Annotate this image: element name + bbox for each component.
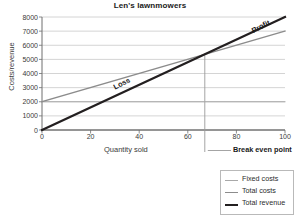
x-tick-label: 0 — [40, 133, 44, 140]
legend-item-fixed-costs[interactable]: Fixed costs — [225, 175, 278, 184]
x-tick-label: 80 — [232, 133, 240, 140]
legend-label-total-costs: Total costs — [242, 187, 276, 195]
x-tick-label: 100 — [279, 133, 291, 140]
legend: Fixed costs Total costs Total revenue — [220, 170, 294, 215]
x-tick-label: 40 — [135, 133, 143, 140]
legend-item-total-costs[interactable]: Total costs — [225, 187, 276, 196]
legend-swatch-total-costs — [225, 188, 238, 196]
break-even-chart: Len's lawnmowers Costs/revenue 010002000… — [0, 0, 300, 221]
legend-label-fixed-costs: Fixed costs — [242, 175, 278, 183]
legend-label-total-revenue: Total revenue — [242, 199, 285, 207]
legend-swatch-fixed-costs — [225, 176, 238, 184]
series-line-total-costs — [42, 31, 285, 102]
legend-swatch-total-revenue — [225, 200, 238, 208]
x-tick-label: 60 — [184, 133, 192, 140]
x-tick-label: 20 — [87, 133, 95, 140]
legend-item-total-revenue[interactable]: Total revenue — [225, 199, 289, 208]
